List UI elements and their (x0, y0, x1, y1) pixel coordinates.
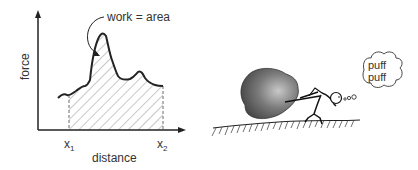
x2-label-subscript: 2 (163, 144, 168, 153)
x1-label-subscript: 1 (70, 144, 75, 153)
y-axis-label: force (18, 53, 32, 80)
ground-line (213, 120, 360, 128)
thought-text-line1: puff (368, 59, 387, 71)
breath-bubbles (344, 95, 356, 100)
diagram-canvas: work = area force distance x1 x2 (0, 0, 418, 170)
ground-grass (212, 120, 354, 136)
rock (241, 68, 298, 118)
annotation-label: work = area (106, 10, 170, 24)
thought-text-line2: puff (368, 71, 387, 83)
x-axis-arrow-icon (178, 127, 186, 133)
x2-label: x2 (157, 137, 168, 153)
work-area-graph: work = area force distance x1 x2 (18, 10, 186, 165)
x-axis-label: distance (92, 151, 137, 165)
y-axis-arrow-icon (35, 10, 41, 18)
pushing-rock-illustration: puff puff (212, 52, 402, 136)
x1-label: x1 (64, 137, 75, 153)
